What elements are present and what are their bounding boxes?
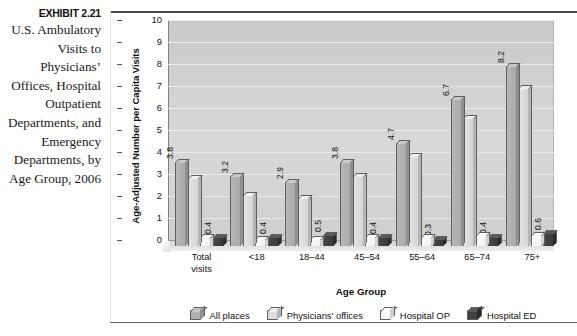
y-axis-tick-mark xyxy=(117,108,122,109)
x-axis-tick-label: Totalvisits xyxy=(174,252,230,275)
y-axis-tick-mark xyxy=(117,20,122,21)
x-axis-tick-labels: Totalvisits<1818–4445–5455–6465–7475+ xyxy=(168,252,554,284)
bar[interactable]: 0.4 xyxy=(268,237,279,246)
bar-side-face xyxy=(528,85,532,246)
y-axis-tick-mark xyxy=(117,130,122,131)
y-axis-tick-label: 5 xyxy=(122,125,162,135)
bar[interactable]: 0.5 xyxy=(323,235,334,246)
legend-swatch xyxy=(267,310,278,320)
bar-group: 2.92.20.30.5 xyxy=(278,26,333,246)
x-axis-tick-label: 55–64 xyxy=(394,252,450,264)
bar[interactable]: 0.5 xyxy=(476,235,487,246)
x-axis-tick-label: 75+ xyxy=(504,252,560,264)
chart: Age-Adjusted Number per Capita Visits 01… xyxy=(112,14,577,322)
bar-side-face xyxy=(516,63,520,246)
legend-item[interactable]: Physicians' offices xyxy=(267,310,363,321)
bar-value-label: 6.7 xyxy=(442,84,451,96)
bar-side-face xyxy=(350,160,354,246)
bar[interactable]: 0.5 xyxy=(531,235,542,246)
bar-value-label: 0.4 xyxy=(259,222,268,234)
bar-side-face xyxy=(473,116,477,246)
bar[interactable]: 0.4 xyxy=(421,237,432,246)
y-axis-tick-mark xyxy=(117,174,122,175)
bar[interactable]: 3.2 xyxy=(353,176,364,246)
bar-group: 3.83.20.40.4 xyxy=(333,26,388,246)
y-axis-tick-label: 4 xyxy=(122,147,162,157)
y-axis-tick-label: 1 xyxy=(122,213,162,223)
legend-item[interactable]: All places xyxy=(190,310,250,321)
bar-value-label: 3.8 xyxy=(166,147,175,159)
y-axis-tick-mark xyxy=(117,240,122,241)
bar[interactable]: 3.1 xyxy=(188,178,199,246)
bar-value-label: 2.9 xyxy=(276,167,285,179)
y-axis-tick-label: 7 xyxy=(122,81,162,91)
bar-value-label: 0.6 xyxy=(534,218,543,230)
bar[interactable]: 3.8 xyxy=(175,162,186,246)
y-axis-tick-mark xyxy=(117,42,122,43)
y-axis-tick-label: 10 xyxy=(122,15,162,25)
bar-side-face xyxy=(253,193,257,246)
y-axis-tick-label: 6 xyxy=(122,103,162,113)
gridline xyxy=(168,20,554,21)
y-axis-tick-label: 8 xyxy=(122,59,162,69)
bar[interactable]: 4.7 xyxy=(396,143,407,246)
bar[interactable]: 8.2 xyxy=(506,66,517,246)
x-axis-title: Age Group xyxy=(168,286,554,297)
top-divider-rule xyxy=(110,11,577,13)
x-axis-tick-label: 18–44 xyxy=(284,252,340,264)
bar[interactable]: 0.4 xyxy=(365,237,376,246)
exhibit-number: EXHIBIT 2.21 xyxy=(0,6,104,20)
bar-value-label: 4.7 xyxy=(387,128,396,140)
legend-label: Physicians' offices xyxy=(287,310,363,321)
exhibit-caption: EXHIBIT 2.21 U.S. Ambulatory Visits to P… xyxy=(0,6,104,188)
vertical-divider-rule xyxy=(110,11,111,322)
y-axis-tick-mark xyxy=(117,196,122,197)
bar-value-label: 0.5 xyxy=(314,220,323,232)
bar[interactable]: 0.4 xyxy=(213,237,224,246)
legend-label: Hospital OP xyxy=(400,310,450,321)
bar[interactable]: 2.9 xyxy=(285,182,296,246)
plot-area: 012345678910 3.83.10.40.43.22.30.30.42.9… xyxy=(168,20,554,246)
y-axis-tick-mark xyxy=(117,152,122,153)
x-axis-tick-label: 65–74 xyxy=(449,252,505,264)
y-axis-tick-mark xyxy=(117,218,122,219)
bar-value-label: 8.2 xyxy=(497,51,506,63)
bar-group: 4.74.10.40.3 xyxy=(389,26,444,246)
bar-group: 3.22.30.30.4 xyxy=(223,26,278,246)
legend-item[interactable]: Hospital ED xyxy=(467,310,537,321)
legend-label: All places xyxy=(210,310,250,321)
bar-group: 8.27.20.50.6 xyxy=(499,26,554,246)
bar-side-face xyxy=(406,140,410,246)
bar-value-label: 3.8 xyxy=(331,147,340,159)
bar[interactable]: 3.2 xyxy=(230,176,241,246)
bar-side-face xyxy=(295,180,299,246)
bar-side-face xyxy=(418,153,422,246)
legend-swatch xyxy=(380,310,391,320)
chart-legend: All placesPhysicians' officesHospital OP… xyxy=(148,306,577,324)
bar-value-label: 3.2 xyxy=(221,161,230,173)
bar-side-face xyxy=(198,175,202,246)
bar-side-face xyxy=(461,96,465,246)
y-axis-tick-mark xyxy=(117,86,122,87)
exhibit-figure: EXHIBIT 2.21 U.S. Ambulatory Visits to P… xyxy=(0,0,577,336)
bar-side-face xyxy=(363,173,367,246)
x-axis-tick-label: 45–54 xyxy=(339,252,395,264)
legend-swatch xyxy=(467,310,478,320)
bar[interactable]: 3.8 xyxy=(340,162,351,246)
bar-group: 6.75.80.50.4 xyxy=(444,26,499,246)
y-axis-tick-label: 0 xyxy=(122,235,162,245)
bar[interactable]: 2.2 xyxy=(298,198,309,246)
bar-value-label: 0.4 xyxy=(204,222,213,234)
bar-side-face xyxy=(240,173,244,246)
legend-item[interactable]: Hospital OP xyxy=(380,310,450,321)
x-axis-tick-label: <18 xyxy=(229,252,285,264)
legend-swatch xyxy=(190,310,201,320)
y-axis-tick-label: 2 xyxy=(122,191,162,201)
bar[interactable]: 0.4 xyxy=(378,237,389,246)
y-axis-tick-mark xyxy=(117,64,122,65)
y-axis-tick-label: 3 xyxy=(122,169,162,179)
bar[interactable]: 2.3 xyxy=(243,195,254,246)
bar-group: 3.83.10.40.4 xyxy=(168,26,223,246)
bar[interactable]: 6.7 xyxy=(451,99,462,246)
bar-side-face xyxy=(308,195,312,246)
